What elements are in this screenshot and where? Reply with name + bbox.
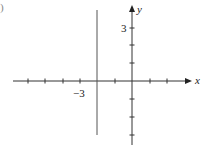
x-axis-label: x [194,74,200,86]
x-axis-arrow-icon [185,78,192,84]
chart: −3 x 3 y [0,0,201,157]
y-axis-label: y [136,3,142,15]
x-tick-label-minus3: −3 [73,87,85,99]
y-axis-arrow-icon [129,5,135,12]
y-axis: 3 y [121,3,142,145]
y-tick-label-3: 3 [121,22,127,34]
x-axis: −3 x [13,74,200,99]
